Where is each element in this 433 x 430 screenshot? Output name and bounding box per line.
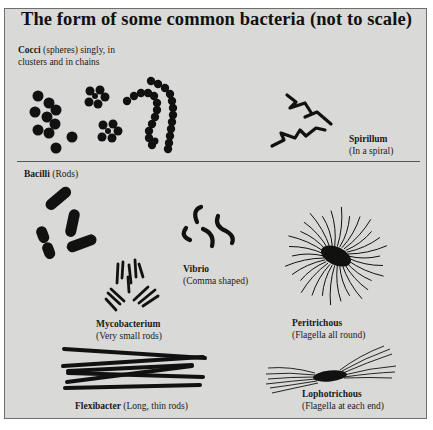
spirillum-illustration — [272, 95, 331, 146]
lophotrichous-illustration — [266, 346, 396, 393]
bacilli-illustration — [35, 185, 98, 261]
bacteria-illustrations — [0, 0, 433, 430]
peritrichous-illustration — [285, 207, 387, 305]
vibrio-illustration — [184, 207, 233, 246]
flexibacter-illustration — [63, 349, 205, 388]
cocci-illustration — [30, 77, 178, 154]
mycobacterium-illustration — [106, 260, 158, 310]
